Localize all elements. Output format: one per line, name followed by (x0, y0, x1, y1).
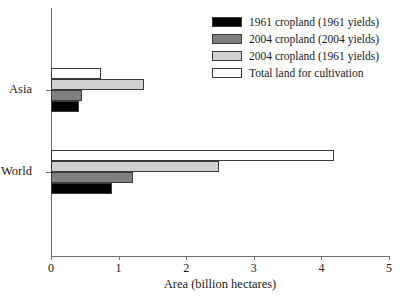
y-axis-line (51, 8, 52, 256)
x-axis-line (51, 256, 389, 257)
y-tick-asia (46, 90, 51, 91)
x-tick-3 (254, 256, 255, 260)
bar-asia-series-2 (51, 90, 82, 101)
x-tick-label-4: 4 (309, 261, 333, 276)
bar-asia-series-3 (51, 79, 144, 90)
x-tick-label-5: 5 (377, 261, 401, 276)
y-tick-label-asia: Asia (0, 82, 32, 97)
bar-world-series-3 (51, 161, 219, 172)
x-tick-5 (389, 256, 390, 260)
y-tick-world (46, 172, 51, 173)
x-axis-title: Area (billion hectares) (51, 277, 389, 292)
bar-world-series-2 (51, 172, 133, 183)
x-tick-label-3: 3 (242, 261, 266, 276)
bar-world-series-1 (51, 183, 112, 194)
x-tick-4 (321, 256, 322, 260)
x-tick-label-0: 0 (39, 261, 63, 276)
x-tick-0 (51, 256, 52, 260)
bar-asia-series-4 (51, 68, 101, 79)
x-tick-2 (186, 256, 187, 260)
x-tick-1 (119, 256, 120, 260)
bar-asia-series-1 (51, 101, 79, 112)
x-tick-label-2: 2 (174, 261, 198, 276)
x-tick-label-1: 1 (107, 261, 131, 276)
y-tick-label-world: World (0, 164, 32, 179)
plot-area: AsiaWorld (51, 8, 389, 256)
bar-chart: 1961 cropland (1961 yields) 2004 croplan… (0, 0, 402, 306)
bar-world-series-4 (51, 150, 334, 161)
